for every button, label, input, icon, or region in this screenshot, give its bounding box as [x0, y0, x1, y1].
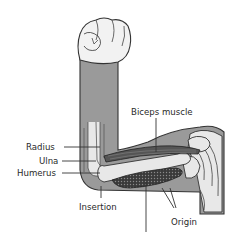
label-insertion: Insertion	[79, 202, 117, 212]
label-ulna: Ulna	[39, 156, 58, 166]
label-biceps-muscle: Biceps muscle	[131, 107, 193, 117]
label-origin: Origin	[171, 217, 197, 227]
fist	[78, 18, 131, 64]
label-humerus: Humerus	[17, 168, 57, 178]
label-radius: Radius	[26, 142, 55, 152]
biceps-arm-diagram: Biceps muscle Radius Ulna Humerus Insert…	[0, 0, 238, 245]
